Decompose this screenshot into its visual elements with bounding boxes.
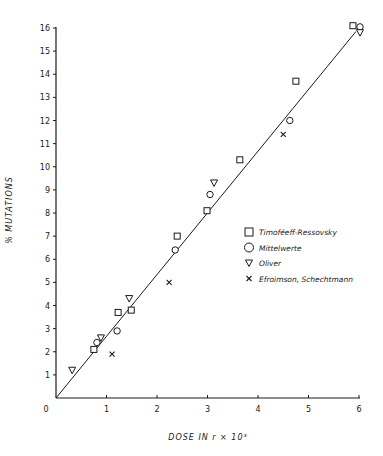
circle-data-point	[94, 339, 100, 345]
x-data-point	[167, 280, 172, 285]
square-data-point	[237, 157, 243, 163]
y-tick-label: 9	[45, 186, 50, 195]
y-tick-label: 1	[45, 371, 50, 380]
x-axis-title: DOSE IN r × 10³	[168, 433, 247, 442]
square-data-point	[91, 346, 97, 352]
x-tick-label: 0	[43, 405, 48, 414]
x-legend-icon	[247, 276, 252, 281]
y-tick-label: 2	[45, 348, 50, 357]
y-tick-label: 6	[45, 255, 50, 264]
x-tick-label: 2	[154, 405, 159, 414]
y-tick-label: 5	[45, 278, 50, 287]
circle-data-point	[357, 24, 363, 30]
triangle-down-data-point	[69, 367, 76, 374]
y-tick-label: 11	[40, 140, 50, 149]
square-legend-icon	[245, 228, 253, 236]
legend-label: Timoféeff-Ressovsky	[259, 228, 337, 237]
legend-label: Oliver	[259, 259, 282, 268]
triangle-down-data-point	[211, 180, 218, 187]
circle-data-point	[114, 328, 120, 334]
x-tick-label: 4	[255, 405, 260, 414]
axis-ticks: 012345612345678910111213141516	[40, 24, 362, 414]
circle-data-point	[172, 247, 178, 253]
x-data-point	[110, 352, 115, 357]
square-data-point	[128, 307, 134, 313]
mutation-dose-chart: 012345612345678910111213141516 DOSE IN r…	[0, 0, 383, 456]
legend-label: Efroimson, Schechtmann	[259, 275, 353, 284]
y-tick-label: 14	[40, 70, 50, 79]
x-tick-label: 3	[205, 405, 210, 414]
circle-data-point	[287, 117, 293, 123]
y-tick-label: 8	[45, 209, 50, 218]
circle-data-point	[207, 191, 213, 197]
square-data-point	[204, 208, 210, 214]
triangle-down-legend-icon	[246, 260, 253, 267]
x-tick-label: 5	[306, 405, 311, 414]
y-tick-label: 3	[45, 325, 50, 334]
y-tick-label: 10	[40, 163, 50, 172]
y-tick-label: 7	[45, 232, 50, 241]
y-tick-label: 16	[40, 24, 50, 33]
x-data-point	[281, 132, 286, 137]
square-data-point	[174, 233, 180, 239]
square-data-point	[350, 23, 356, 29]
square-data-point	[115, 309, 121, 315]
legend: Timoféeff-RessovskyMittelwerteOliverEfro…	[245, 228, 354, 284]
y-axis-title: % MUTATIONS	[5, 176, 14, 244]
y-tick-label: 13	[40, 93, 50, 102]
circle-legend-icon	[245, 243, 254, 252]
triangle-down-data-point	[357, 30, 364, 37]
data-points	[69, 23, 364, 374]
regression-line	[56, 31, 356, 398]
triangle-down-data-point	[126, 296, 133, 303]
y-tick-label: 4	[45, 302, 50, 311]
y-tick-label: 15	[40, 47, 50, 56]
square-data-point	[293, 78, 299, 84]
y-tick-label: 12	[40, 117, 50, 126]
legend-label: Mittelwerte	[259, 244, 302, 253]
x-tick-label: 6	[356, 405, 361, 414]
x-tick-label: 1	[104, 405, 109, 414]
